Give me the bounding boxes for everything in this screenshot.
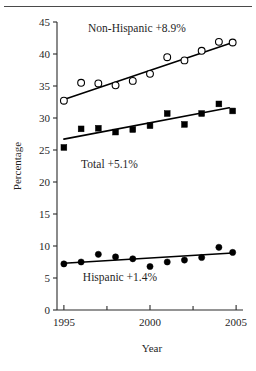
- y-tick-label: 15: [39, 208, 51, 220]
- y-tick-label: 5: [45, 272, 51, 284]
- point-non-hispanic: [95, 80, 102, 87]
- point-non-hispanic: [147, 70, 154, 77]
- annotation-total: Total +5.1%: [81, 158, 138, 170]
- x-tick-label: 1995: [53, 316, 76, 328]
- point-total: [78, 126, 84, 132]
- x-axis-tick-labels: 199520002005: [53, 316, 248, 328]
- x-tick-label: 2005: [225, 316, 248, 328]
- point-hispanic: [164, 259, 170, 265]
- point-total: [147, 123, 153, 129]
- y-axis-ticks: [53, 22, 57, 310]
- point-hispanic: [181, 257, 187, 263]
- annotation-non-hispanic: Non-Hispanic +8.9%: [88, 22, 186, 35]
- point-total: [216, 101, 222, 107]
- point-non-hispanic: [78, 79, 85, 86]
- point-hispanic: [130, 256, 136, 262]
- point-non-hispanic: [229, 39, 236, 46]
- point-hispanic: [61, 261, 67, 267]
- point-non-hispanic: [215, 38, 222, 45]
- point-total: [182, 122, 188, 128]
- point-total: [61, 145, 67, 151]
- y-axis-title: Percentage: [11, 142, 23, 190]
- point-hispanic: [112, 254, 118, 260]
- y-tick-label: 0: [45, 304, 51, 316]
- point-hispanic: [147, 263, 153, 269]
- trend-line-hispanic: [64, 253, 233, 263]
- point-hispanic: [216, 244, 222, 250]
- point-non-hispanic: [60, 97, 67, 104]
- y-tick-label: 40: [39, 48, 51, 60]
- point-total: [230, 108, 236, 114]
- series-annotations: Non-Hispanic +8.9%Total +5.1%Hispanic +1…: [81, 22, 186, 283]
- point-total: [113, 129, 119, 135]
- y-tick-label: 35: [39, 80, 51, 92]
- point-hispanic: [199, 254, 205, 260]
- point-total: [130, 127, 136, 133]
- annotation-hispanic: Hispanic +1.4%: [83, 271, 158, 284]
- point-total: [95, 125, 101, 131]
- figure-container: 051015202530354045 199520002005 Non-Hisp…: [0, 0, 256, 371]
- y-tick-label: 10: [39, 240, 51, 252]
- point-hispanic: [230, 249, 236, 255]
- point-total: [164, 111, 170, 117]
- scatter-plot: 051015202530354045 199520002005 Non-Hisp…: [0, 0, 256, 371]
- x-axis-ticks: [64, 305, 236, 310]
- y-axis-tick-labels: 051015202530354045: [39, 16, 51, 316]
- x-tick-label: 2000: [139, 316, 162, 328]
- y-tick-label: 25: [39, 144, 51, 156]
- data-points: [60, 38, 236, 269]
- y-tick-label: 30: [39, 112, 51, 124]
- point-non-hispanic: [112, 82, 119, 89]
- point-non-hispanic: [164, 54, 171, 61]
- y-tick-label: 20: [39, 176, 51, 188]
- point-non-hispanic: [129, 77, 136, 84]
- point-hispanic: [78, 259, 84, 265]
- point-non-hispanic: [181, 57, 188, 64]
- point-hispanic: [95, 251, 101, 257]
- point-total: [199, 111, 205, 117]
- point-non-hispanic: [198, 47, 205, 54]
- y-tick-label: 45: [39, 16, 51, 28]
- x-axis-title: Year: [142, 342, 163, 354]
